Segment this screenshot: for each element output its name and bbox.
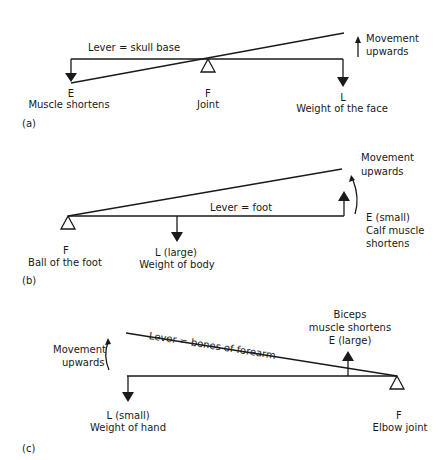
movement-b-line2: upwards xyxy=(361,166,404,178)
fulcrum-b-letter: F xyxy=(63,245,69,257)
movement-a-line2: upwards xyxy=(366,46,409,58)
lever-a-tilted xyxy=(71,33,344,83)
panel-c-tag: (c) xyxy=(22,443,35,455)
movement-c-line2: upwards xyxy=(62,357,105,369)
fulcrum-b-desc: Ball of the foot xyxy=(28,257,102,269)
fulcrum-c-triangle xyxy=(390,376,404,389)
effort-c-arrowhead xyxy=(342,351,354,361)
load-a-desc: Weight of the face xyxy=(296,103,388,115)
fulcrum-b-triangle xyxy=(61,216,75,229)
movement-a-line1: Movement xyxy=(366,33,419,45)
effort-c-letter: E (large) xyxy=(329,335,372,347)
effort-c-line1: Biceps xyxy=(334,309,367,321)
lever-a-label: Lever = skull base xyxy=(88,42,180,54)
fulcrum-c-letter: F xyxy=(396,410,402,422)
movement-a-arrowhead xyxy=(355,36,361,43)
movement-c-arc xyxy=(106,342,109,370)
panel-b-tag: (b) xyxy=(22,275,36,287)
effort-a-desc: Muscle shortens xyxy=(28,99,109,111)
lever-b-tilted xyxy=(68,169,342,216)
movement-c-line1: Movement xyxy=(53,344,106,356)
effort-b-letter: E (small) xyxy=(366,212,410,224)
movement-b-arc xyxy=(353,180,357,214)
load-c-desc: Weight of hand xyxy=(90,422,166,434)
fulcrum-a-triangle xyxy=(201,59,215,72)
load-b-arrowhead xyxy=(171,232,183,242)
fulcrum-a-desc: Joint xyxy=(197,99,219,111)
effort-b-desc2: shortens xyxy=(366,238,409,250)
load-a-arrowhead xyxy=(337,77,349,87)
movement-b-line1: Movement xyxy=(361,152,414,164)
movement-b-arrowhead xyxy=(349,175,355,182)
fulcrum-c-desc: Elbow joint xyxy=(373,422,428,434)
load-c-arrowhead xyxy=(122,392,134,402)
load-b-desc: Weight of body xyxy=(139,259,215,271)
load-b-letter: L (large) xyxy=(155,247,197,259)
effort-b-desc1: Calf muscle xyxy=(366,225,424,237)
effort-b-arrowhead xyxy=(338,191,350,201)
load-c-letter: L (small) xyxy=(106,410,149,422)
lever-b-label: Lever = foot xyxy=(210,202,272,214)
effort-a-arrowhead xyxy=(65,73,77,82)
effort-c-line2: muscle shortens xyxy=(309,322,391,334)
panel-a-tag: (a) xyxy=(22,118,36,130)
